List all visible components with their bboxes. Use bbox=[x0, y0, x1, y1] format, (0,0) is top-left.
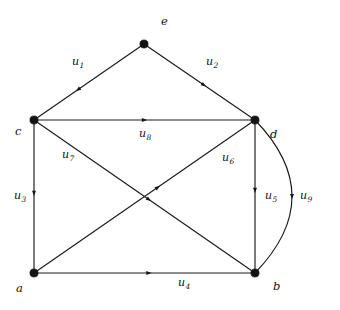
node-a bbox=[30, 269, 38, 277]
edge-label-subscript: 1 bbox=[79, 61, 84, 70]
node-label-d: d bbox=[270, 129, 277, 141]
edge-u2 bbox=[144, 44, 255, 120]
arrowhead-u8 bbox=[142, 118, 147, 122]
edge-label-u7: u7 bbox=[62, 149, 74, 160]
edge-label-subscript: 9 bbox=[307, 195, 312, 204]
edge-label-subscript: 6 bbox=[229, 157, 234, 166]
edge-label-subscript: 7 bbox=[69, 154, 74, 163]
arrowhead-u7 bbox=[146, 196, 151, 201]
edge-label-u2: u2 bbox=[206, 56, 218, 67]
edge-label-u8: u8 bbox=[139, 128, 151, 139]
node-e bbox=[140, 40, 148, 48]
node-label-a: a bbox=[16, 283, 23, 295]
edge-label-subscript: 4 bbox=[185, 282, 190, 291]
edge-label-u9: u9 bbox=[300, 190, 312, 201]
edge-label-u6: u6 bbox=[222, 152, 234, 163]
edge-label-u4: u4 bbox=[178, 277, 190, 288]
node-b bbox=[251, 269, 259, 277]
arrowhead-u3 bbox=[32, 191, 36, 196]
graph-canvas bbox=[0, 0, 340, 310]
edge-label-u1: u1 bbox=[72, 56, 84, 67]
edge-label-u3: u3 bbox=[14, 190, 26, 201]
edge-label-subscript: 5 bbox=[272, 195, 277, 204]
arrowhead-u1 bbox=[76, 86, 81, 91]
edge-u1 bbox=[34, 44, 144, 120]
edge-label-subscript: 2 bbox=[213, 61, 218, 70]
edge-label-subscript: 3 bbox=[21, 195, 26, 204]
arrowhead-u6 bbox=[154, 186, 159, 191]
arrowhead-u9 bbox=[290, 194, 294, 199]
graph-figure: u1u2u3u4u5u6u7u8u9ecdab bbox=[0, 0, 340, 310]
edge-label-u5: u5 bbox=[265, 190, 277, 201]
edge-label-subscript: 8 bbox=[146, 133, 151, 142]
arrowhead-u2 bbox=[201, 82, 206, 87]
node-d bbox=[251, 116, 259, 124]
node-c bbox=[30, 116, 38, 124]
node-label-b: b bbox=[273, 281, 280, 293]
arrowhead-u5 bbox=[253, 188, 257, 193]
arrowhead-u4 bbox=[146, 271, 151, 275]
node-label-c: c bbox=[15, 126, 21, 138]
node-label-e: e bbox=[161, 16, 168, 28]
